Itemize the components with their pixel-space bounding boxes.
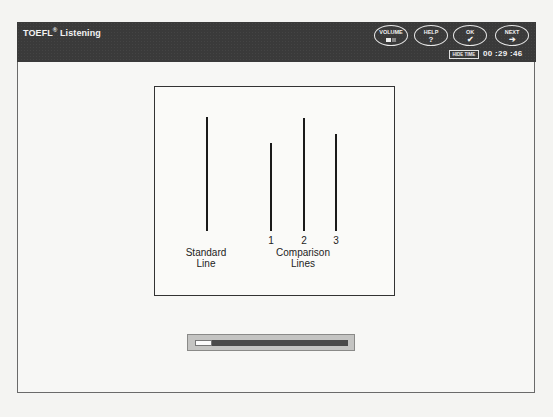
comparison-lines-label: Comparison Lines [268, 247, 338, 269]
line-number-1: 1 [266, 235, 276, 246]
help-button[interactable]: HELP ? [414, 25, 448, 46]
comparison-line-3 [335, 134, 337, 231]
line-number-2: 2 [299, 235, 309, 246]
next-button[interactable]: NEXT ➔ [495, 25, 529, 46]
comparison-label-line2: Lines [268, 258, 338, 269]
comparison-line-1 [270, 143, 272, 231]
volume-button[interactable]: VOLUME [374, 25, 408, 46]
question-mark-icon: ? [415, 35, 447, 44]
title-text: TOEFL [23, 28, 53, 38]
comparison-line-2 [303, 118, 305, 231]
header-bar: TOEFL® Listening VOLUME HELP ? OK ✔ NEXT… [17, 22, 536, 62]
ok-button[interactable]: OK ✔ [453, 25, 487, 46]
hide-time-button[interactable]: HIDE TIME [449, 50, 479, 59]
progress-fill [195, 340, 212, 346]
standard-label-line2: Line [173, 258, 239, 269]
line-number-3: 3 [331, 235, 341, 246]
title-suffix: Listening [57, 28, 101, 38]
progress-track [195, 340, 348, 346]
app-title: TOEFL® Listening [23, 27, 101, 38]
arrow-right-icon: ➔ [496, 35, 528, 44]
standard-line [206, 117, 208, 231]
countdown-timer: 00 :29 :46 [483, 49, 522, 58]
comparison-label-line1: Comparison [268, 247, 338, 258]
volume-icon [375, 35, 407, 44]
audio-progress-bar [187, 334, 355, 351]
standard-line-label: Standard Line [173, 247, 239, 269]
line-comparison-figure: 1 2 3 Standard Line Comparison Lines [154, 86, 395, 296]
checkmark-icon: ✔ [454, 35, 486, 44]
standard-label-line1: Standard [173, 247, 239, 258]
